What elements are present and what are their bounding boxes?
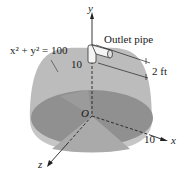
radius-label-x: 10 bbox=[144, 133, 156, 145]
pipe-length-label: 2 ft bbox=[152, 65, 167, 77]
hemisphere-tank-diagram: x² + y² = 100 Outlet pipe 2 ft 10 10 O y… bbox=[0, 0, 187, 180]
radius-label-y: 10 bbox=[71, 58, 83, 70]
outlet-pipe-label: Outlet pipe bbox=[104, 33, 153, 45]
outlet-pipe-end bbox=[108, 50, 113, 58]
origin-label: O bbox=[81, 107, 89, 119]
x-axis-label: x bbox=[170, 134, 176, 146]
equation-label: x² + y² = 100 bbox=[10, 44, 68, 56]
z-axis-label: z bbox=[37, 158, 43, 170]
x-axis-arrow-icon bbox=[160, 137, 168, 141]
y-axis-label: y bbox=[87, 2, 93, 14]
